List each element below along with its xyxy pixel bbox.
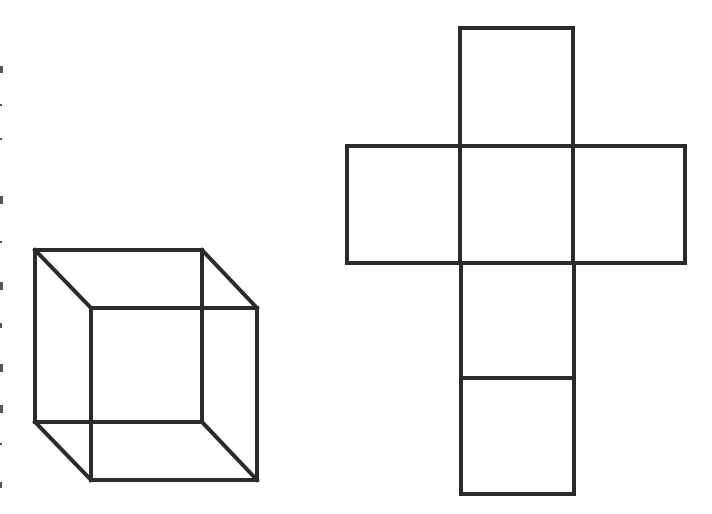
cube-edge-bottom-left (35, 422, 91, 480)
net-face-center (460, 146, 573, 263)
figure-canvas (0, 0, 712, 514)
left-edge-text-fragments (0, 66, 3, 488)
net-face-lower (461, 263, 574, 378)
cube-edge-bottom-right (202, 422, 257, 480)
net-face-left (347, 146, 460, 263)
cube-edge-top-left (35, 250, 91, 308)
net-face-top (460, 28, 573, 146)
net-face-bottom (461, 378, 574, 494)
net-face-right (573, 146, 685, 263)
cube-net (347, 28, 685, 494)
wireframe-cube (35, 250, 257, 480)
cube-edge-top-right (202, 250, 257, 308)
